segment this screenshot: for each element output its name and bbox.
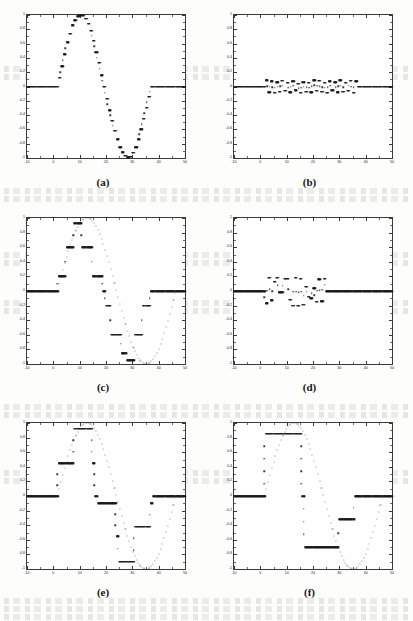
y-tick [27,129,30,130]
data-point [267,303,269,305]
x-minor-tick [326,362,327,364]
y-tick [27,276,30,277]
x-tick-top [185,218,186,221]
y-tick [234,101,237,102]
y-tick [234,452,237,453]
underlying-sine-point [284,431,285,432]
data-point [134,360,136,362]
x-minor-tick-top [93,423,94,425]
data-point-transition [301,483,303,485]
underlying-sine-point [108,262,109,263]
underlying-sine-point [153,359,154,360]
x-tick-label: 0 [259,367,261,371]
y-tick-label: 0.2 [20,480,25,484]
y-minor-tick-right [390,518,392,519]
data-point-transition [351,86,353,88]
y-tick [234,320,237,321]
y-minor-tick [27,122,29,123]
data-point [322,91,324,93]
x-tick [366,155,367,158]
y-tick-right [182,233,185,234]
data-point [102,74,104,76]
y-tick-right [389,306,392,307]
data-point-transition [303,521,305,523]
underlying-sine-point [64,468,65,469]
data-point [320,279,322,281]
x-tick-top [287,15,288,18]
y-minor-tick-right [390,489,392,490]
y-tick-right [389,452,392,453]
y-tick-right [182,101,185,102]
x-tick-label: 50 [390,572,394,576]
data-point-transition [287,87,289,89]
y-minor-tick-right [390,151,392,152]
underlying-sine-point [62,474,63,475]
data-point [306,91,308,93]
x-tick-top [366,423,367,426]
data-point [115,130,117,132]
data-point-transition [115,514,117,516]
plot-b: 10.80.60.40.20-0.2-0.4-0.6-0.8-1-1001020… [233,14,393,159]
y-tick-label: 0.2 [227,275,232,279]
x-minor-tick [93,567,94,569]
data-point [346,82,348,84]
x-tick-label: 40 [364,161,368,165]
data-point-transition [277,284,279,286]
y-minor-tick-right [390,65,392,66]
y-tick-right [389,349,392,350]
data-point-transition [117,548,119,550]
y-minor-tick [27,313,29,314]
data-point-transition [109,319,111,321]
x-minor-tick [326,567,327,569]
data-point [335,81,337,83]
x-minor-tick [247,567,248,569]
data-point [296,277,298,279]
plot-a: 10.80.60.40.20-0.2-0.4-0.6-0.8-1-1001020… [26,14,186,159]
data-point [94,40,96,42]
underlying-sine-point [92,425,93,426]
panel-caption-f: (f) [206,586,413,598]
y-minor-tick [234,108,236,109]
underlying-sine-point [167,525,168,526]
x-minor-tick-top [300,15,301,17]
underlying-sine-point [330,522,331,523]
underlying-sine-point [108,467,109,468]
data-point [272,81,274,83]
underlying-sine-point [83,424,84,425]
y-tick [27,44,30,45]
y-tick-label: 0.4 [20,465,25,469]
underlying-sine-point [271,468,272,469]
data-point [354,92,356,94]
underlying-sine-point [114,487,115,488]
data-point-transition [144,113,146,115]
underlying-sine-point [266,488,267,489]
x-tick [132,361,133,364]
y-tick-right [389,115,392,116]
data-point [84,15,86,17]
underlying-sine-point [277,449,278,450]
underlying-sine-point [301,428,302,429]
x-tick [80,155,81,158]
data-point-transition [301,446,303,448]
x-minor-tick-top [40,15,41,17]
data-point [322,300,324,302]
x-tick-top [339,15,340,18]
x-tick-label: 0 [259,161,261,165]
y-minor-tick [27,357,29,358]
underlying-sine-point [140,360,141,361]
x-tick-label: 40 [157,572,161,576]
data-point-transition [146,101,148,103]
x-tick-label: 50 [390,367,394,371]
y-tick-label: 0.8 [20,436,25,440]
panel-caption-a: (a) [0,176,206,188]
data-point-transition [282,85,284,87]
data-point [351,80,353,82]
data-point [149,305,151,307]
data-point [317,301,319,303]
underlying-sine-point [164,538,165,539]
data-point [142,334,144,336]
panel-caption-b: (b) [206,176,413,188]
y-tick-label: 1 [230,216,232,220]
data-point-transition [266,85,268,87]
y-minor-tick-right [183,533,185,534]
